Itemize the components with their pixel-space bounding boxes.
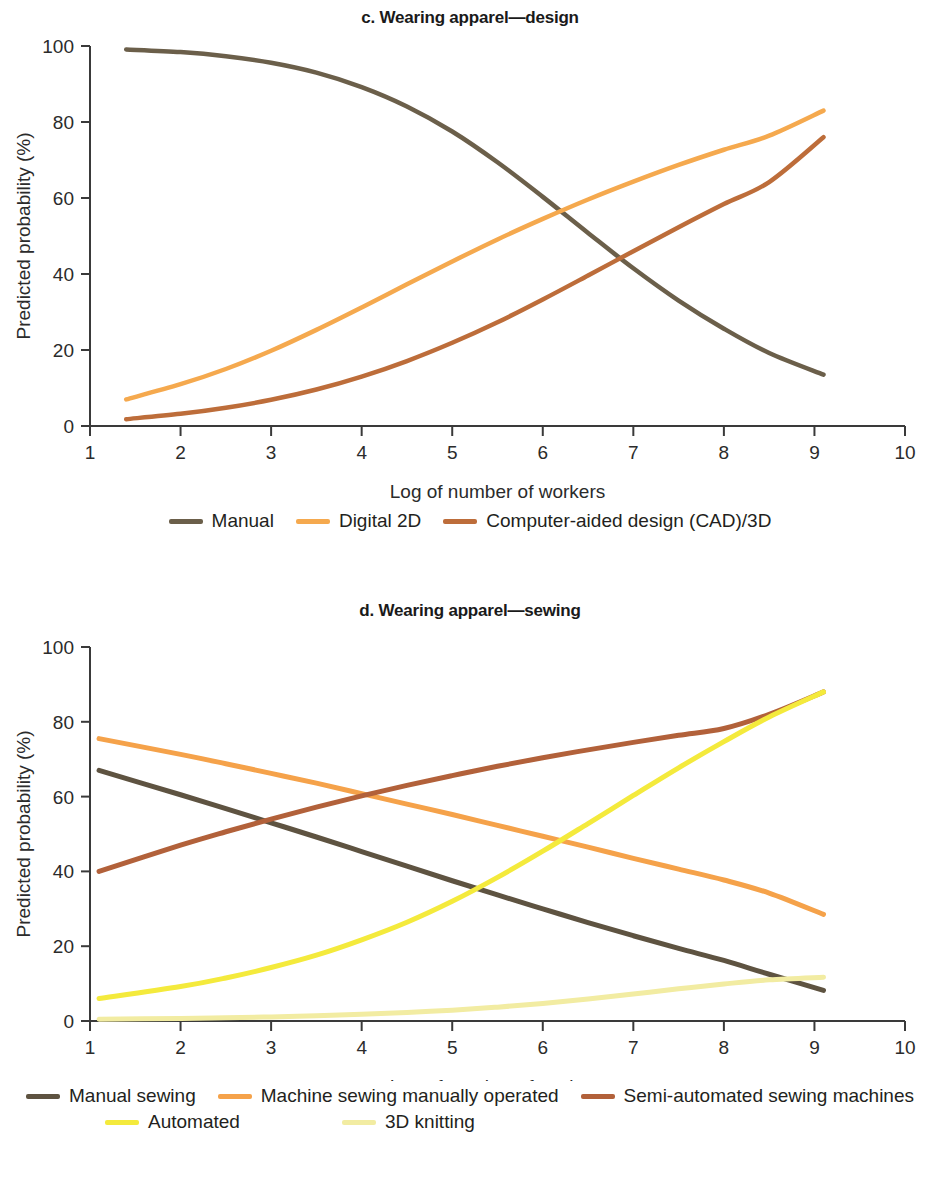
panel-d-legend: Manual sewingMachine sewing manually ope…: [0, 1085, 940, 1133]
x-tick-label: 10: [894, 1037, 915, 1058]
x-tick-label: 5: [447, 1037, 458, 1058]
panel-d-title: d. Wearing apparel—sewing: [0, 590, 940, 621]
y-tick-label: 0: [63, 416, 74, 437]
x-tick-label: 8: [719, 442, 730, 463]
series-line-manual: [126, 49, 823, 374]
x-tick-label: 1: [85, 442, 96, 463]
x-tick-label: 4: [356, 1037, 367, 1058]
legend-color-swatch: [169, 519, 203, 524]
y-tick-label: 100: [42, 36, 74, 57]
y-tick-label: 20: [53, 936, 74, 957]
legend-color-swatch: [218, 1094, 252, 1099]
chart-c-svg: 02040608010012345678910Log of number of …: [0, 28, 940, 508]
x-tick-label: 4: [356, 442, 367, 463]
legend-color-swatch: [296, 519, 330, 524]
legend-row: Automated3D knitting: [0, 1111, 940, 1133]
x-tick-label: 1: [85, 1037, 96, 1058]
legend-label: Manual sewing: [69, 1085, 196, 1107]
series-line-computer-aided-design-cad-3d: [126, 137, 823, 419]
series-line-machine-sewing-manually-operated: [99, 739, 823, 915]
x-tick-label: 7: [628, 442, 639, 463]
x-tick-label: 9: [809, 442, 820, 463]
x-axis-title: Log of number of workers: [390, 481, 605, 502]
legend-item[interactable]: Manual: [169, 510, 274, 532]
y-tick-label: 60: [53, 787, 74, 808]
y-axis-title: Predicted probability (%): [13, 133, 34, 340]
legend-label: Digital 2D: [339, 510, 421, 532]
x-tick-label: 9: [809, 1037, 820, 1058]
y-tick-label: 0: [63, 1011, 74, 1032]
legend-label: 3D knitting: [385, 1111, 475, 1133]
panel-c-legend: ManualDigital 2DComputer-aided design (C…: [0, 510, 940, 532]
legend-item[interactable]: Machine sewing manually operated: [218, 1085, 559, 1107]
legend-item[interactable]: 3D knitting: [342, 1111, 475, 1133]
x-tick-label: 6: [537, 1037, 548, 1058]
y-tick-label: 20: [53, 340, 74, 361]
y-axis-title: Predicted probability (%): [13, 731, 34, 938]
x-tick-label: 2: [175, 442, 186, 463]
series-line-digital-2d: [126, 111, 823, 400]
x-tick-label: 10: [894, 442, 915, 463]
panel-c-title: c. Wearing apparel—design: [0, 0, 940, 28]
legend-item[interactable]: Automated: [105, 1111, 320, 1133]
y-tick-label: 80: [53, 712, 74, 733]
x-axis-title: Log of number of workers: [390, 1076, 605, 1081]
series-line-semi-automated-sewing-machines: [99, 692, 823, 872]
y-tick-label: 80: [53, 112, 74, 133]
legend-color-swatch: [342, 1120, 376, 1125]
legend-label: Machine sewing manually operated: [261, 1085, 559, 1107]
legend-color-swatch: [26, 1094, 60, 1099]
legend-item[interactable]: Digital 2D: [296, 510, 421, 532]
chart-d-svg: 02040608010012345678910Log of number of …: [0, 621, 940, 1081]
x-tick-label: 7: [628, 1037, 639, 1058]
legend-item[interactable]: Manual sewing: [26, 1085, 196, 1107]
legend-label: Computer-aided design (CAD)/3D: [486, 510, 771, 532]
y-tick-label: 100: [42, 637, 74, 658]
legend-item[interactable]: Computer-aided design (CAD)/3D: [443, 510, 771, 532]
legend-label: Semi-automated sewing machines: [624, 1085, 914, 1107]
x-tick-label: 6: [537, 442, 548, 463]
panel-wearing-apparel-sewing: d. Wearing apparel—sewing 02040608010012…: [0, 590, 940, 1186]
legend-color-swatch: [443, 519, 477, 524]
series-line-automated: [99, 692, 823, 999]
legend-row: Manual sewingMachine sewing manually ope…: [0, 1085, 940, 1107]
legend-color-swatch: [105, 1120, 139, 1125]
legend-color-swatch: [581, 1094, 615, 1099]
x-tick-label: 8: [719, 1037, 730, 1058]
y-tick-label: 60: [53, 188, 74, 209]
series-line-manual-sewing: [99, 770, 823, 990]
legend-label: Automated: [148, 1111, 240, 1133]
legend-item[interactable]: Semi-automated sewing machines: [581, 1085, 914, 1107]
x-tick-label: 3: [266, 1037, 277, 1058]
panel-d-plot: 02040608010012345678910Log of number of …: [0, 621, 940, 1081]
x-tick-label: 5: [447, 442, 458, 463]
y-tick-label: 40: [53, 861, 74, 882]
y-tick-label: 40: [53, 264, 74, 285]
panel-wearing-apparel-design: c. Wearing apparel—design 02040608010012…: [0, 0, 940, 590]
panel-c-plot: 02040608010012345678910Log of number of …: [0, 28, 940, 508]
x-tick-label: 3: [266, 442, 277, 463]
legend-label: Manual: [212, 510, 274, 532]
x-tick-label: 2: [175, 1037, 186, 1058]
